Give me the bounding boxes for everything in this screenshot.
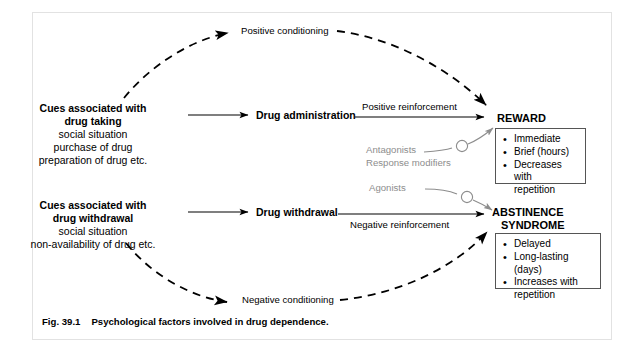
node-drug-administration: Drug administration [256, 109, 356, 121]
abstinence-fact-item: Long-lasting (days) [512, 251, 594, 277]
reward-fact-item: Brief (hours) [512, 146, 579, 159]
label-positive-reinforcement: Positive reinforcement [362, 101, 457, 112]
abstinence-fact-item-continuation: repetition [512, 289, 594, 302]
figure-canvas: Cues associated with drug taking social … [0, 0, 629, 354]
minus-circle-agonists [461, 191, 472, 202]
edge-agonists-to-abstinence [425, 189, 457, 194]
reward-fact-box: Immediate Brief (hours) Decreases with r… [495, 128, 586, 184]
cue-withdrawal-heading-line2: drug withdrawal [0, 212, 186, 225]
edge-negative-conditioning-left [126, 243, 227, 302]
node-reward: REWARD [497, 112, 546, 125]
edge-negative-conditioning-right [340, 232, 487, 300]
cue-taking-sub-line2: purchase of drug [0, 141, 186, 154]
reward-fact-item-continuation: repetition [512, 184, 579, 197]
cue-block-drug-withdrawal: Cues associated with drug withdrawal soc… [0, 199, 186, 251]
abstinence-fact-box: Delayed Long-lasting (days) Increases wi… [495, 233, 601, 289]
edge-antagonists-to-reward [424, 148, 452, 152]
label-positive-conditioning: Positive conditioning [241, 25, 328, 36]
label-negative-conditioning: Negative conditioning [242, 294, 334, 305]
node-drug-withdrawal: Drug withdrawal [256, 206, 338, 218]
cue-block-drug-taking: Cues associated with drug taking social … [0, 102, 186, 167]
cue-taking-sub-line3: preparation of drug etc. [0, 154, 186, 167]
edge-agonists-tail [473, 200, 492, 210]
cue-taking-sub-line1: social situation [0, 128, 186, 141]
edge-antagonists-tail [468, 128, 493, 144]
figure-caption: Fig. 39.1Psychological factors involved … [42, 316, 329, 327]
figure-caption-number: Fig. 39.1 [42, 316, 80, 327]
label-negative-reinforcement: Negative reinforcement [350, 219, 449, 230]
cue-taking-heading-line2: drug taking [0, 115, 186, 128]
cue-withdrawal-sub-line2: non-availability of drug etc. [0, 238, 186, 251]
cue-withdrawal-sub-line1: social situation [0, 225, 186, 238]
abstinence-line1: ABSTINENCE [492, 206, 565, 219]
abstinence-fact-item: Increases with [512, 276, 594, 289]
edge-positive-conditioning-left [124, 33, 228, 98]
node-abstinence-syndrome: ABSTINENCE SYNDROME [492, 206, 565, 232]
reward-fact-item: Immediate [512, 133, 579, 146]
cue-taking-heading-line1: Cues associated with [0, 102, 186, 115]
minus-circle-antagonists [456, 140, 467, 151]
cue-withdrawal-heading-line1: Cues associated with [0, 199, 186, 212]
figure-caption-text: Psychological factors involved in drug d… [91, 316, 328, 327]
label-antagonists: Antagonists [366, 144, 416, 155]
label-response-modifiers: Response modifiers [366, 157, 451, 168]
label-agonists: Agonists [369, 182, 406, 193]
reward-fact-item: Decreases with [512, 159, 579, 185]
abstinence-fact-item: Delayed [512, 238, 594, 251]
abstinence-line2: SYNDROME [492, 219, 565, 232]
edge-positive-conditioning-right [337, 31, 486, 105]
